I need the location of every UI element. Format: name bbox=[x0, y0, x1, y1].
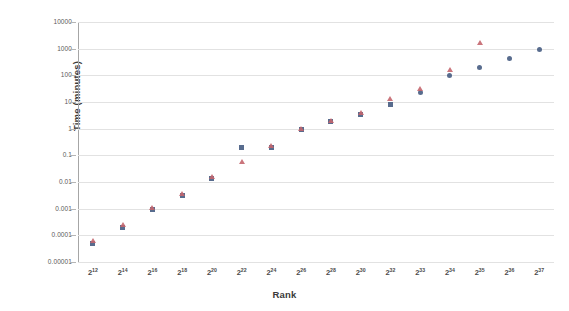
y-axis-tick bbox=[70, 75, 76, 76]
y-axis-tick bbox=[70, 22, 76, 23]
y-axis-tick bbox=[70, 262, 76, 263]
y-axis-tick bbox=[70, 235, 76, 236]
y-axis-tick bbox=[70, 129, 76, 130]
y-axis-tick bbox=[70, 49, 76, 50]
y-axis-tick bbox=[70, 102, 76, 103]
x-axis-tick-labels: 2122142162182202222242262282302322332342… bbox=[0, 0, 569, 311]
y-axis-tick bbox=[70, 209, 76, 210]
x-axis-title: Rank bbox=[0, 289, 569, 300]
y-axis-tick bbox=[70, 182, 76, 183]
chart-container: Time (minutes) 1000010001001010.10.010.0… bbox=[0, 0, 569, 311]
y-axis-tick bbox=[70, 155, 76, 156]
x-axis-tick-label: 237 bbox=[519, 268, 559, 277]
